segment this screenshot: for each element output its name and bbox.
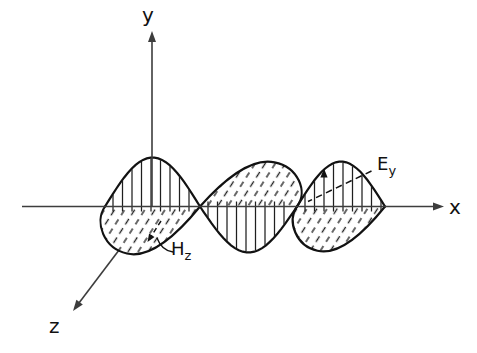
e-field-symbol: E — [377, 153, 388, 174]
x-axis-label: x — [449, 197, 461, 217]
h-field-subscript: z — [185, 248, 192, 263]
wave-diagram-canvas — [0, 0, 477, 353]
h-lobe-fill — [200, 162, 302, 207]
x-axis-arrowhead — [433, 203, 444, 211]
z-axis-arrowhead — [73, 300, 83, 311]
h-field-symbol: H — [171, 238, 185, 259]
h-lobe-fill — [293, 207, 385, 252]
y-axis-arrowhead — [148, 31, 156, 42]
e-lobe-fill — [200, 207, 297, 253]
e-field-subscript: y — [388, 163, 396, 178]
z-axis-label: z — [49, 316, 60, 336]
e-field-label: Ey — [377, 155, 396, 173]
h-field-label: Hz — [171, 240, 191, 258]
em-wave-figure: y x z Ey Hz — [0, 0, 477, 353]
y-axis-label: y — [142, 5, 154, 25]
